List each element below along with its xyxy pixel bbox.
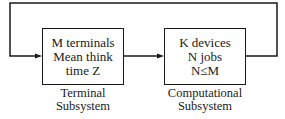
computational-line-3: N≤M [191,64,219,78]
terminal-line-3: time Z [66,64,100,78]
terminal-subsystem-box: M terminals Mean think time Z [42,28,124,85]
terminal-line-1: M terminals [51,36,114,50]
computational-line-1: K devices [179,36,231,50]
terminal-caption-line-2: Subsystem [42,100,124,113]
terminal-subsystem-caption: Terminal Subsystem [42,87,124,113]
computational-subsystem-caption: Computational Subsystem [154,87,256,113]
terminal-line-2: Mean think [53,50,113,64]
feedback-arrowhead-icon [35,54,42,59]
forward-arrowhead-icon [157,54,164,59]
computational-caption-line-2: Subsystem [154,100,256,113]
computational-line-2: N jobs [188,50,222,64]
computational-subsystem-box: K devices N jobs N≤M [164,28,246,85]
